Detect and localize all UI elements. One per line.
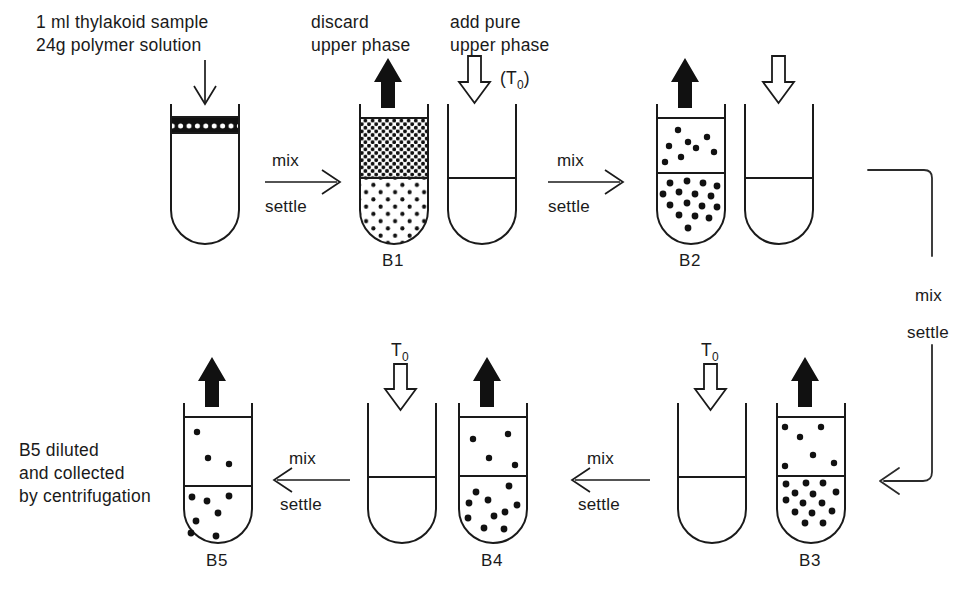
diagram-canvas: 1 ml thylakoid sample 24g polymer soluti… [0, 0, 967, 594]
addpure-down-arrow-4 [385, 364, 416, 410]
tube-start-band [171, 117, 239, 133]
t-zero-annotation-3: T0 [701, 340, 719, 364]
t-zero-annotation-1: (T0) [500, 68, 530, 92]
sample-annotation-line1: 1 ml thylakoid sample [36, 12, 208, 32]
addpure-annotation-line1: add pure [450, 12, 521, 32]
tube-b2: B2 [657, 104, 725, 270]
tube-b2-upper-dots [662, 127, 717, 165]
tube-b3: B3 [777, 403, 845, 570]
tube-b4-upper-dots [470, 431, 518, 468]
step-3-settle-label: settle [907, 323, 949, 342]
discard-annotation-line1: discard [311, 12, 369, 32]
tube-fresh-3 [678, 403, 746, 543]
step-2-mix-label: mix [557, 151, 584, 170]
discard-up-arrow-b2 [671, 58, 699, 108]
collect-annotation-line3: by centrifugation [19, 486, 151, 506]
step-2-arrow: mix settle [548, 151, 623, 216]
tube-fresh-1 [448, 104, 516, 244]
tube-fresh-2 [745, 104, 813, 244]
addpure-down-arrow-2 [763, 56, 794, 103]
t-zero-text-3: T0 [701, 340, 719, 364]
tube-fresh-4 [368, 403, 436, 543]
tube-b4-lower-dots [465, 483, 521, 533]
tube-b4-label: B4 [481, 551, 503, 570]
t-zero-text-2: T0 [391, 340, 409, 364]
step-1-settle-label: settle [265, 197, 307, 216]
phase-partition-diagram: 1 ml thylakoid sample 24g polymer soluti… [0, 0, 967, 594]
step-3-connector: mix settle [868, 170, 949, 494]
tube-b5: B5 [184, 403, 252, 570]
tube-b2-label: B2 [679, 251, 701, 270]
addpure-annotation-line2: upper phase [450, 35, 550, 55]
sample-input-arrow [194, 60, 216, 104]
t-zero-text-1: (T0) [500, 68, 530, 92]
tube-b3-upper-dots [782, 424, 837, 469]
discard-up-arrow-b1 [374, 58, 402, 108]
tube-start [171, 104, 239, 244]
step-5-settle-label: settle [280, 495, 322, 514]
tube-b5-upper-dots [194, 429, 232, 467]
addpure-down-arrow-3 [695, 364, 726, 410]
step-4-mix-label: mix [587, 449, 614, 468]
step-1-mix-label: mix [272, 151, 299, 170]
step-3-mix-label: mix [915, 286, 942, 305]
tube-b5-lower-dots [188, 493, 233, 540]
tube-b2-lower-dots [660, 178, 721, 232]
discard-up-arrow-b5 [198, 357, 226, 407]
tube-b3-lower-dots [783, 480, 840, 527]
discard-up-arrow-b4 [473, 357, 501, 407]
sample-annotation-line2: 24g polymer solution [36, 35, 201, 55]
collect-annotation-line1: B5 diluted [19, 440, 99, 460]
discard-up-arrow-b3 [791, 357, 819, 407]
step-1-arrow: mix settle [265, 151, 340, 216]
collect-annotation-line2: and collected [19, 463, 125, 483]
tube-b1-label: B1 [382, 251, 404, 270]
tube-b5-label: B5 [206, 551, 228, 570]
tube-b3-label: B3 [799, 551, 821, 570]
step-4-settle-label: settle [578, 495, 620, 514]
t-zero-annotation-2: T0 [391, 340, 409, 364]
tube-b1: B1 [360, 104, 428, 270]
step-5-arrow: mix settle [274, 449, 350, 514]
tube-b4: B4 [459, 403, 527, 570]
step-2-settle-label: settle [548, 197, 590, 216]
discard-annotation-line2: upper phase [311, 35, 411, 55]
step-5-mix-label: mix [289, 449, 316, 468]
tube-b1-upper-phase [360, 118, 428, 178]
step-4-arrow: mix settle [572, 449, 650, 514]
addpure-down-arrow-1 [459, 56, 490, 103]
